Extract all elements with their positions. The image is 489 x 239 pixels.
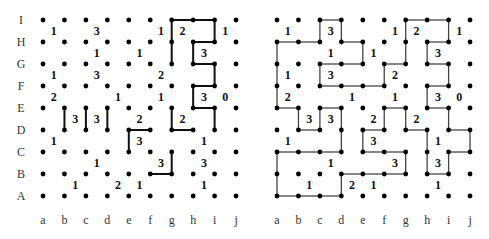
grid-dot [403,84,408,89]
grid-dot [382,62,387,67]
grid-dot [360,194,365,199]
grid-dot [446,62,451,67]
grid-dot [360,84,365,89]
grid-dot [339,172,344,177]
grid-dot [105,150,110,155]
grid-dot [105,62,110,67]
clue-number: 0 [456,90,462,104]
grid-dot [403,128,408,133]
grid-dot [41,128,46,133]
grid-dot [403,150,408,155]
grid-dot [360,18,365,23]
grid-dot [169,40,174,45]
column-label: j [233,213,237,227]
grid-dot [62,194,67,199]
clue-number: 1 [158,24,164,38]
clue-number: 3 [94,24,100,38]
grid-dot [212,194,217,199]
grid-dot [425,128,430,133]
grid-dot [212,84,217,89]
grid-dot [148,62,153,67]
grid-dot [105,172,110,177]
grid-dot [296,194,301,199]
grid-dot [191,128,196,133]
grid-dot [191,172,196,177]
grid-dot [425,194,430,199]
clue-number: 2 [392,68,398,82]
grid-dot [212,106,217,111]
grid-dot [403,194,408,199]
grid-dot [191,194,196,199]
grid-dot [403,62,408,67]
grid-dot [318,106,323,111]
grid-dot [296,106,301,111]
clue-number: 1 [435,178,441,192]
grid-dot [62,62,67,67]
clue-number: 1 [435,134,441,148]
grid-dot [169,172,174,177]
clue-number: 2 [413,24,419,38]
grid-dot [360,40,365,45]
clue-number: 1 [456,24,462,38]
grid-dot [318,194,323,199]
grid-dot [169,84,174,89]
grid-dot [191,106,196,111]
column-label: c [83,213,88,227]
grid-dot [105,128,110,133]
clue-number: 2 [285,90,291,104]
grid-dot [339,18,344,23]
grid-dot [148,84,153,89]
clue-number: 3 [328,112,334,126]
grid-dot [212,128,217,133]
grid-dot [41,106,46,111]
grid-dot [446,84,451,89]
grid-dot [339,150,344,155]
grid-dot [318,84,323,89]
column-label: a [40,213,46,227]
clue-number: 3 [158,156,164,170]
clue-number: 2 [371,112,377,126]
grid-dot [41,40,46,45]
clue-number: 2 [413,112,419,126]
column-label: c [317,213,322,227]
grid-dot [318,150,323,155]
clue-number: 1 [222,24,228,38]
grid-dot [382,106,387,111]
grid-dot [382,150,387,155]
clue-number: 2 [158,68,164,82]
grid-dot [105,106,110,111]
grid-dot [468,18,473,23]
grid-dot [84,84,89,89]
grid-dot [148,194,153,199]
clue-number: 3 [72,112,78,126]
grid-dot [296,172,301,177]
grid-dot [468,84,473,89]
grid-dot [212,150,217,155]
grid-dot [191,150,196,155]
row-label: A [17,189,26,203]
grid-dot [425,84,430,89]
grid-dot [382,84,387,89]
grid-dot [446,18,451,23]
clue-number: 3 [328,68,334,82]
grid-dot [446,128,451,133]
grid-dot [41,194,46,199]
grid-dot [382,18,387,23]
grid-dot [84,128,89,133]
grid-dot [275,194,280,199]
clue-number: 1 [51,68,57,82]
grid-dot [41,172,46,177]
clue-number: 3 [435,90,441,104]
grid-dot [234,194,239,199]
clue-number: 3 [201,90,207,104]
clue-number: 1 [392,24,398,38]
grid-dot [339,194,344,199]
row-label: F [18,79,25,93]
grid-dot [318,40,323,45]
grid-dot [296,40,301,45]
grid-dot [169,18,174,23]
clue-number: 3 [94,68,100,82]
column-label: f [382,213,386,227]
grid-dot [275,172,280,177]
row-label: C [17,145,25,159]
